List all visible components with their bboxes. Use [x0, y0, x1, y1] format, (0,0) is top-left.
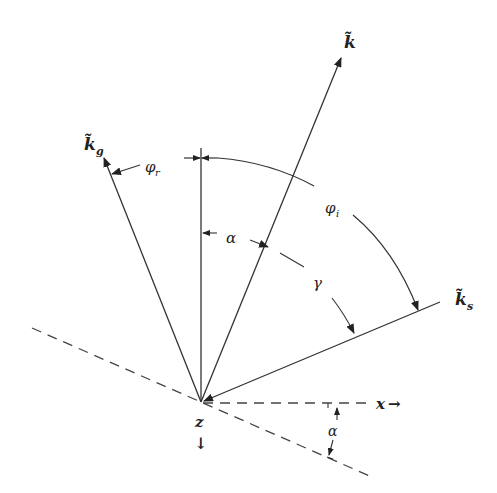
k-label: k̃ — [344, 31, 356, 52]
gamma-arc-lower — [332, 298, 354, 333]
ks-subscript: s — [467, 300, 473, 313]
alpha-tilt-label: α — [328, 423, 338, 439]
phi-r-subscript: r — [155, 167, 161, 178]
tilted-surface-line — [32, 328, 372, 477]
k-vector — [201, 58, 341, 402]
phi-i-label: φ — [325, 199, 336, 217]
phi-i-arc-upper — [218, 158, 314, 186]
gamma-arc-mid — [280, 253, 304, 267]
kg-subscript: g — [96, 145, 104, 158]
alpha-label: α — [226, 229, 236, 247]
z-axis-arrow-icon: ↓ — [194, 434, 207, 453]
alpha-tilt-arrow-bottom — [329, 440, 333, 455]
ks-vector — [204, 302, 440, 401]
kg-label: k̃ — [84, 133, 96, 154]
phi-i-subscript: i — [336, 208, 339, 219]
ks-label: k̃ — [455, 288, 467, 309]
x-axis-label: x — [375, 395, 386, 413]
gamma-label: γ — [313, 274, 322, 292]
vector-diagram: k̃ k̃ g k̃ s φ r φ i α γ α x → z ↓ — [0, 0, 497, 493]
x-axis-arrow-icon: → — [388, 395, 401, 413]
phi-i-arc-lower — [353, 215, 418, 310]
z-axis-label: z — [194, 413, 204, 431]
phi-r-arrow-left — [112, 165, 140, 174]
